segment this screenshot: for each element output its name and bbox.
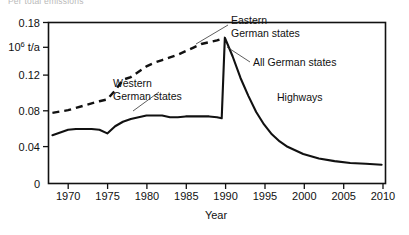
y-axis-unit-label: 106 t/a (8, 40, 41, 53)
plot-frame (49, 23, 386, 184)
unit-mantissa: 10 (8, 41, 20, 53)
xtick-label-1975: 1975 (95, 190, 119, 202)
annotation-highways: Highways (277, 91, 323, 103)
xtick-label-2005: 2005 (331, 190, 355, 202)
x-axis-ticks (68, 184, 383, 190)
xtick-label-1985: 1985 (174, 190, 198, 202)
xtick-label-1995: 1995 (253, 190, 277, 202)
xtick-label-1970: 1970 (56, 190, 80, 202)
annotation-all-german-line1: All German states (253, 56, 336, 68)
xtick-label-2010: 2010 (371, 190, 395, 202)
xtick-label-1990: 1990 (213, 190, 237, 202)
ytick-label-0-08: 0.08 (19, 105, 40, 117)
emissions-line-chart: 0.18 106 t/a 0.12 0.08 0.04 0 1970 1975 … (0, 0, 409, 235)
unit-suffix: t/a (25, 41, 41, 53)
xtick-label-2000: 2000 (292, 190, 316, 202)
annotation-western-line1: Western (113, 77, 152, 89)
y-axis-tick-labels: 0.18 106 t/a 0.12 0.08 0.04 0 (8, 17, 41, 190)
annotation-eastern-line1: Eastern (231, 14, 267, 26)
x-axis-tick-labels: 1970 1975 1980 1985 1990 1995 2000 2005 … (56, 190, 395, 202)
annotation-all-german-states: All German states (253, 56, 336, 68)
ytick-label-0-04: 0.04 (19, 141, 40, 153)
annotation-highways-label: Highways (277, 91, 323, 103)
xtick-label-1980: 1980 (135, 190, 159, 202)
annotation-western-line2: German states (113, 90, 182, 102)
annotation-eastern-german-states: Eastern German states (231, 14, 300, 39)
leader-all-german (227, 47, 250, 62)
ytick-label-0-18: 0.18 (19, 17, 40, 29)
figure-container: Per total emissions 0.18 106 t/a 0.12 0.… (0, 0, 409, 235)
x-axis-title: Year (205, 209, 228, 221)
y-axis-ticks (43, 23, 49, 147)
leader-eastern (196, 25, 228, 44)
annotation-western-german-states: Western German states (113, 77, 182, 102)
annotation-eastern-line2: German states (231, 27, 300, 39)
ytick-label-0: 0 (34, 178, 40, 190)
ytick-label-0-12: 0.12 (19, 69, 40, 81)
